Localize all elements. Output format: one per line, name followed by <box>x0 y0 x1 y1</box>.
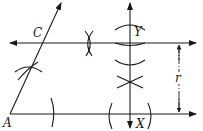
label-X: X <box>136 118 145 130</box>
label-r: r <box>174 72 182 84</box>
label-C: C <box>33 27 42 39</box>
arc-base-A <box>51 98 54 127</box>
transversal-line <box>10 3 61 114</box>
construction-diagram <box>0 0 203 131</box>
label-A: A <box>3 117 12 129</box>
label-Y: Y <box>134 26 142 38</box>
arc-cross-transversal-2 <box>18 62 38 80</box>
arc-X-left <box>109 103 112 129</box>
arc-X-right <box>148 103 151 129</box>
